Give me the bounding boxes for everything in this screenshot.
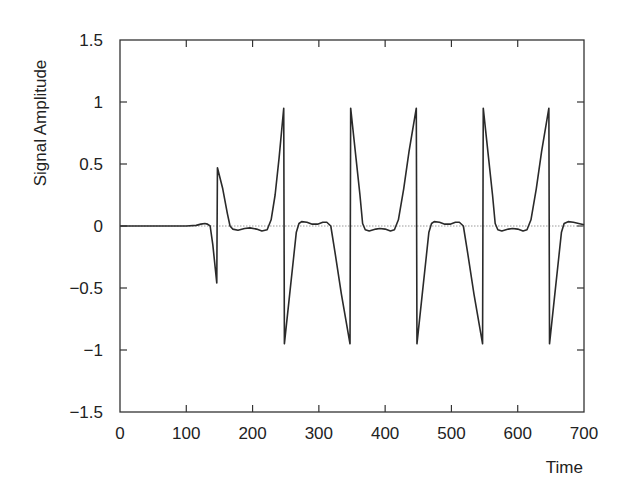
y-tick-label: −1 (84, 341, 103, 360)
y-tick-label: 0.5 (79, 155, 103, 174)
x-tick-label: 0 (115, 424, 124, 443)
y-tick-label: 1.5 (79, 31, 103, 50)
x-tick-label: 600 (504, 424, 532, 443)
y-tick-label: 0 (94, 217, 103, 236)
y-tick-label: −0.5 (69, 279, 103, 298)
x-tick-label: 200 (238, 424, 266, 443)
x-axis-title: Time (546, 458, 583, 477)
x-tick-label: 300 (305, 424, 333, 443)
line-chart: 0100200300400500600700 −1.5−1−0.500.511.… (0, 0, 629, 504)
y-tick-label: −1.5 (69, 403, 103, 422)
y-tick-label: 1 (94, 93, 103, 112)
x-tick-label: 400 (371, 424, 399, 443)
x-tick-label: 700 (570, 424, 598, 443)
y-axis-title: Signal Amplitude (31, 60, 50, 187)
x-tick-label: 100 (172, 424, 200, 443)
x-axis-tick-labels: 0100200300400500600700 (115, 424, 598, 443)
x-tick-label: 500 (437, 424, 465, 443)
y-axis-tick-labels: −1.5−1−0.500.511.5 (69, 31, 103, 422)
